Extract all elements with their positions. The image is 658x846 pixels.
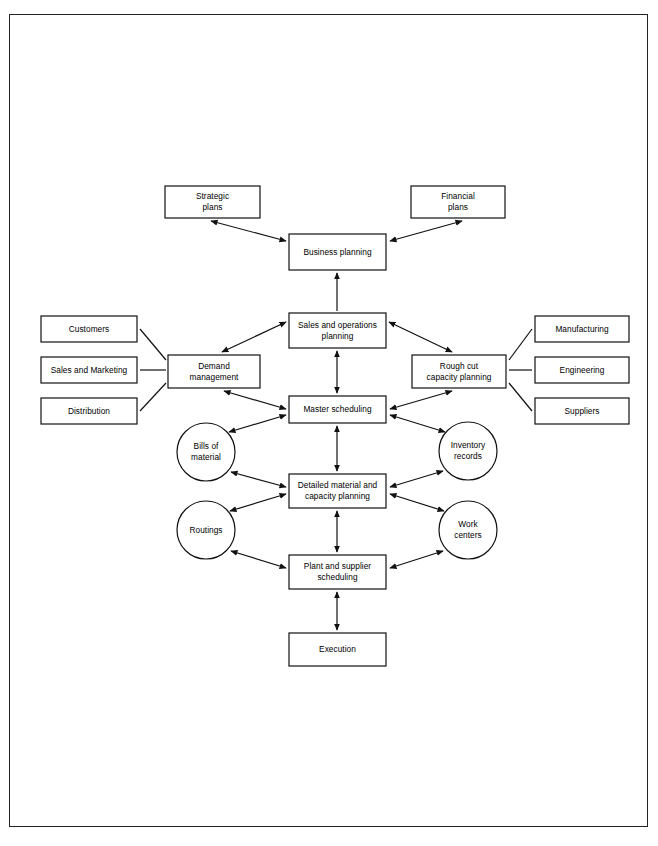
edge-master-to-inventory (390, 415, 445, 432)
node-label-routings: Routings (177, 501, 235, 559)
node-label-financial-plans: Financial plans (411, 186, 505, 218)
node-label-work-centers: Work centers (439, 501, 497, 559)
edge-sop-to-demand (222, 322, 286, 352)
node-label-demand-management: Demand management (168, 355, 260, 388)
node-label-execution: Execution (289, 633, 386, 666)
node-label-bills-of-material: Bills of material (177, 423, 235, 481)
edge-roughcut-to-master (390, 391, 452, 409)
node-label-customers: Customers (41, 316, 137, 342)
edge-business-to-financial (390, 221, 462, 241)
node-label-sales-operations: Sales and operations planning (289, 313, 386, 348)
node-label-distribution: Distribution (41, 398, 137, 424)
edge-roughcut-to-suppliers (509, 383, 532, 411)
node-label-engineering: Engineering (535, 357, 629, 383)
edge-business-to-strategic (211, 221, 286, 241)
edge-distribution-to-demand (140, 383, 166, 411)
edge-detailed-to-workcenters (390, 494, 444, 511)
node-label-suppliers: Suppliers (535, 398, 629, 424)
edge-inventory-to-detailed (390, 471, 443, 487)
edge-bills-to-detailed (231, 472, 286, 487)
node-label-rough-cut-capacity: Rough cut capacity planning (412, 355, 506, 388)
node-label-manufacturing: Manufacturing (535, 316, 629, 342)
edge-workcenters-to-plant (390, 551, 443, 568)
edge-sop-to-roughcut (389, 322, 452, 352)
node-label-plant-supplier: Plant and supplier scheduling (289, 555, 386, 589)
node-label-master-scheduling: Master scheduling (289, 396, 386, 423)
edge-detailed-to-routings (230, 494, 286, 511)
node-label-sales-and-marketing: Sales and Marketing (41, 357, 137, 383)
edge-routings-to-plant (231, 551, 286, 568)
page-canvas: Strategic plansFinancial plansBusiness p… (0, 0, 658, 846)
node-label-inventory-records: Inventory records (439, 422, 497, 480)
edge-master-to-bills (229, 415, 286, 432)
node-label-detailed-material: Detailed material and capacity planning (289, 474, 386, 508)
edge-roughcut-to-manufacturing (509, 329, 532, 360)
node-label-strategic-plans: Strategic plans (165, 186, 260, 218)
edge-customers-to-demand (140, 329, 166, 360)
edge-demand-to-master (224, 391, 286, 409)
node-label-business-planning: Business planning (289, 234, 386, 270)
